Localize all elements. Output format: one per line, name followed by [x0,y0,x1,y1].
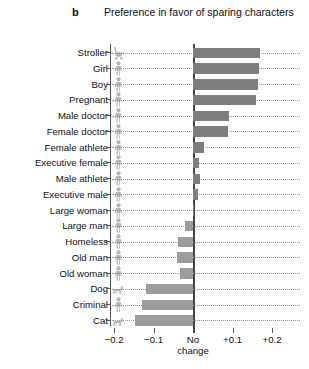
y-axis-tick [106,225,111,226]
gridline [112,147,300,148]
x-axis: −0.2−0.1Nochange+0.1+0.2 [0,328,309,369]
category-label: Executive male [43,188,108,201]
homeless-icon [112,234,125,249]
x-axis-tick [154,328,155,333]
x-axis-tick-label: +0.2 [263,334,282,345]
y-axis-tick [106,257,111,258]
chart-row: Male doctor [0,108,309,124]
gridline [112,289,300,290]
chart-row: Old woman [0,266,309,282]
category-label: Executive female [35,156,108,169]
chart-row: Stroller [0,45,309,61]
bar [177,252,193,263]
bar [193,189,198,200]
large-man-icon [112,218,125,233]
chart-row: Boy [0,77,309,93]
cat-icon [112,313,125,328]
chart-row: Girl [0,61,309,77]
y-axis-tick [106,320,111,321]
chart-row: Old man [0,250,309,266]
male-athlete-icon [112,171,125,186]
gridline [112,242,300,243]
dog-icon [112,281,125,296]
chart-row: Cat [0,313,309,329]
y-axis-tick [106,210,111,211]
chart-row: Dog [0,281,309,297]
bar [193,205,194,216]
pregnant-icon [112,92,125,107]
executive-female-icon [112,155,125,170]
category-label: Male athlete [56,172,108,185]
y-axis-tick [106,52,111,53]
x-axis-tick [193,326,195,333]
y-axis-tick [106,99,111,100]
y-axis-tick [106,84,111,85]
gridline [112,305,300,306]
category-label: Pregnant [69,93,108,106]
chart-row: Pregnant [0,92,309,108]
y-axis-tick [106,273,111,274]
y-axis-tick [106,162,111,163]
bar [185,221,193,232]
category-label: Female doctor [47,125,108,138]
chart-row: Homeless [0,234,309,250]
bar [178,237,193,248]
bar [193,174,200,185]
chart-title: Preference in favor of sparing character… [104,6,304,18]
gridline [112,194,300,195]
category-label: Female athlete [45,141,108,154]
gridline [112,179,300,180]
bar [193,142,204,153]
category-label: Male doctor [58,109,108,122]
bar [193,79,258,90]
bar [146,284,193,295]
y-axis-tick [106,147,111,148]
x-axis-tick [114,328,115,333]
y-axis-tick [106,304,111,305]
stroller-icon [112,45,125,60]
gridline [112,257,300,258]
y-axis-tick [106,115,111,116]
category-label: Homeless [65,235,108,248]
bar [142,300,193,311]
x-axis-tick [233,328,234,333]
x-axis-tick-label: Nochange [177,334,208,356]
x-axis-tick [272,328,273,333]
category-label: Old man [72,251,108,264]
boy-icon [112,77,125,92]
chart-row: Male athlete [0,171,309,187]
bar [193,63,259,74]
y-axis-tick [106,131,111,132]
preference-bar-chart: b Preference in favor of sparing charact… [0,0,309,369]
plot-area: StrollerGirlBoyPregnantMale doctorFemale… [0,44,309,328]
chart-row: Female athlete [0,140,309,156]
x-axis-tick-label: +0.1 [223,334,242,345]
chart-row: Female doctor [0,124,309,140]
y-axis-tick [106,178,111,179]
male-doctor-icon [112,108,125,123]
bar [193,111,229,122]
gridline [112,163,300,164]
criminal-icon [112,297,125,312]
y-axis-tick [106,68,111,69]
old-woman-icon [112,266,125,281]
category-label: Old woman [59,267,108,280]
chart-row: Executive female [0,155,309,171]
category-label: Large man [62,219,108,232]
large-woman-icon [112,203,125,218]
category-label: Stroller [78,46,108,59]
gridline [112,210,300,211]
x-axis-tick-label: −0.1 [144,334,163,345]
female-athlete-icon [112,140,125,155]
chart-row: Large man [0,218,309,234]
executive-male-icon [112,187,125,202]
bar [135,315,193,326]
gridline [112,226,300,227]
y-axis-tick [106,194,111,195]
bar [193,48,260,59]
panel-letter: b [72,6,79,18]
category-label: Large woman [50,204,108,217]
female-doctor-icon [112,124,125,139]
chart-row: Executive male [0,187,309,203]
x-axis-tick-label: −0.2 [105,334,124,345]
